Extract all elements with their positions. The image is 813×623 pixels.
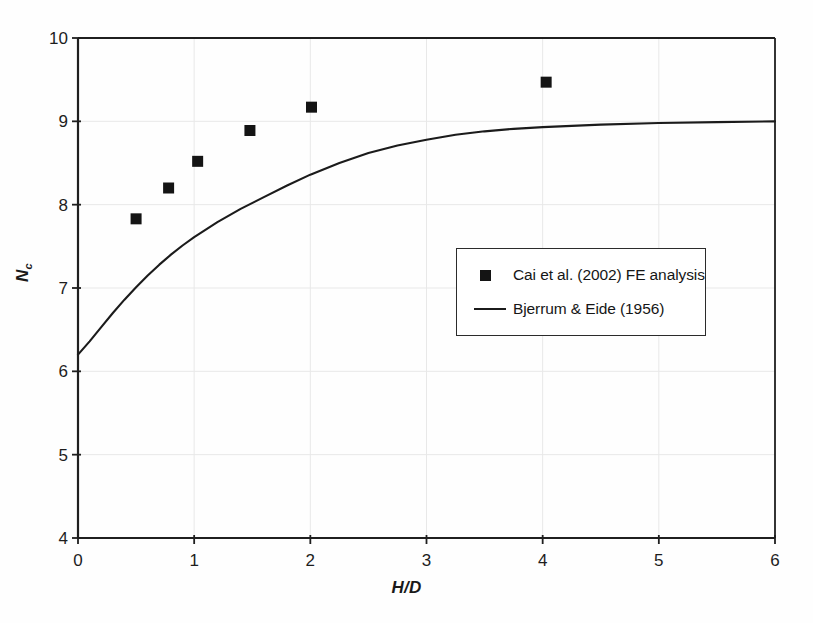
legend-label-bjerrum-eide: Bjerrum & Eide (1956) bbox=[513, 300, 664, 318]
x-tick-label-0: 0 bbox=[73, 552, 82, 569]
legend-marker-line-icon bbox=[473, 308, 513, 310]
x-tick-label-3: 3 bbox=[422, 552, 431, 569]
legend-label-cai: Cai et al. (2002) FE analysis bbox=[513, 266, 705, 284]
chart-figure: Nc H/D 456789100123456 Cai et al. (2002)… bbox=[0, 0, 813, 623]
y-tick-label-6: 6 bbox=[26, 363, 68, 380]
y-tick-label-4: 4 bbox=[26, 530, 68, 547]
y-axis-title-subscript: c bbox=[22, 263, 34, 269]
y-tick-label-8: 8 bbox=[26, 196, 68, 213]
x-tick-label-1: 1 bbox=[189, 552, 198, 569]
y-tick-label-10: 10 bbox=[26, 30, 68, 47]
y-tick-label-5: 5 bbox=[26, 446, 68, 463]
x-tick-label-4: 4 bbox=[538, 552, 547, 569]
y-tick-label-9: 9 bbox=[26, 113, 68, 130]
x-axis-title: H/D bbox=[0, 578, 813, 598]
x-tick-label-6: 6 bbox=[770, 552, 779, 569]
legend-marker-square-icon bbox=[473, 270, 513, 281]
y-tick-label-7: 7 bbox=[26, 280, 68, 297]
legend-item-cai: Cai et al. (2002) FE analysis bbox=[457, 258, 705, 292]
x-tick-label-5: 5 bbox=[654, 552, 663, 569]
x-tick-label-2: 2 bbox=[306, 552, 315, 569]
legend-item-bjerrum-eide: Bjerrum & Eide (1956) bbox=[457, 292, 705, 326]
legend: Cai et al. (2002) FE analysis Bjerrum & … bbox=[456, 248, 706, 336]
